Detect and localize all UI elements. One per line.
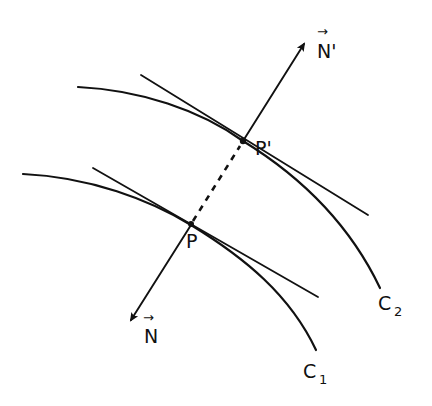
curve-c1: [23, 174, 316, 350]
label-c2: C: [378, 292, 391, 314]
tangent-line-p: [93, 168, 318, 297]
label-n-prime: N': [317, 40, 336, 62]
curve-c2: [78, 87, 380, 288]
vector-arrow-icon-n: →: [143, 310, 154, 325]
diagram-canvas: P' P → N' → N C 2 C 1: [0, 0, 432, 406]
point-p-marker: [188, 221, 194, 227]
point-p-prime-marker: [240, 138, 246, 144]
normal-vector-n: [131, 225, 191, 320]
label-c1-subscript: 1: [319, 372, 327, 387]
label-p: P: [186, 230, 197, 252]
label-c2-subscript: 2: [394, 304, 402, 319]
label-n: N: [144, 325, 158, 347]
dashed-connector-p-to-p-prime: [193, 146, 240, 221]
label-c1: C: [303, 360, 316, 382]
vector-arrow-icon-n-prime: →: [317, 24, 328, 39]
normal-vector-n-prime: [243, 44, 304, 141]
label-p-prime: P': [255, 137, 272, 159]
